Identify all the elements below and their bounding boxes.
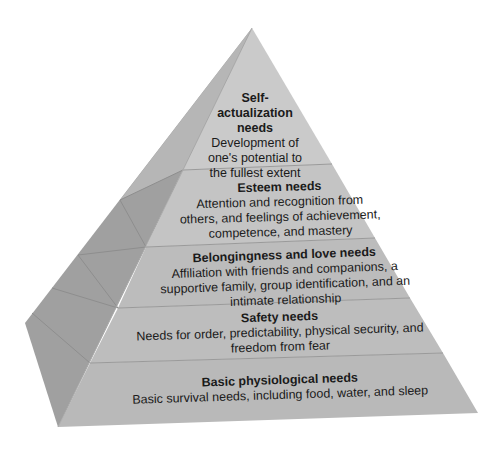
level-title: needs (180, 121, 330, 136)
level-title: actualization (180, 106, 330, 121)
level-self-actualization: Self- actualization needs Development of… (180, 91, 330, 181)
level-description: one's potential to (180, 151, 330, 166)
level-title: Self- (180, 91, 330, 106)
level-description: Development of (180, 136, 330, 151)
level-safety: Safety needs Needs for order, predictabi… (129, 305, 430, 359)
level-esteem: Esteem needs Attention and recognition f… (169, 177, 390, 243)
level-belongingness: Belongingness and love needs Affiliation… (149, 243, 421, 312)
